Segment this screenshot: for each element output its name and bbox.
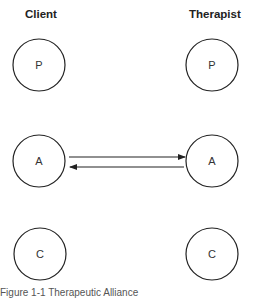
node-label: C: [36, 248, 44, 260]
therapist-child-node: C: [186, 228, 238, 280]
therapist-adult-node: A: [186, 135, 238, 187]
client-parent-node: P: [13, 39, 65, 91]
client-child-node: C: [14, 228, 66, 280]
ego-state-diagram: P A C P A C: [0, 0, 254, 298]
node-label: P: [35, 59, 42, 71]
node-label: A: [35, 155, 43, 167]
client-adult-node: A: [13, 135, 65, 187]
node-label: A: [208, 155, 216, 167]
node-label: P: [208, 59, 215, 71]
node-label: C: [208, 248, 216, 260]
therapist-parent-node: P: [186, 39, 238, 91]
figure-caption: Figure 1-1 Therapeutic Alliance: [0, 287, 138, 298]
